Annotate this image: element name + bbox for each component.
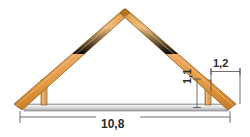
roof-truss-figure: 10,8 1,2 1,1 — [0, 0, 250, 137]
wall-height-dimension-label: 1,1 — [182, 69, 193, 84]
overhang-dimension-label: 1,2 — [213, 58, 228, 69]
span-dimension-label: 10,8 — [101, 118, 124, 130]
left-rafter — [14, 9, 130, 110]
span-dimension — [20, 111, 230, 123]
